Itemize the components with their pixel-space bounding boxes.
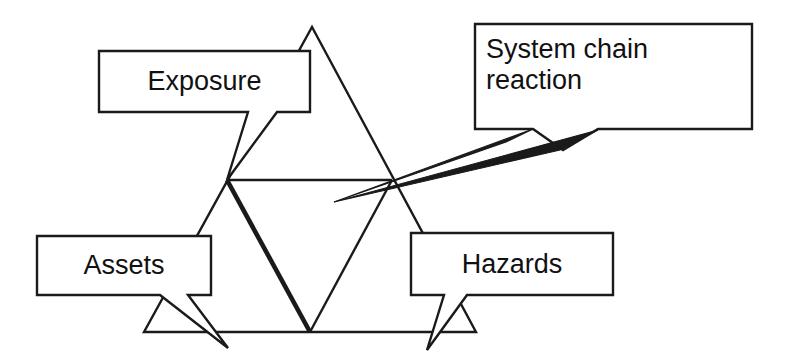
- node-label-system-chain-reaction: System chain reaction: [486, 34, 748, 124]
- diagram-canvas: Exposure Assets Hazards System chain rea…: [0, 0, 790, 354]
- node-label-assets: Assets: [37, 236, 211, 295]
- node-label-exposure: Exposure: [99, 51, 310, 112]
- node-label-hazards: Hazards: [411, 233, 613, 295]
